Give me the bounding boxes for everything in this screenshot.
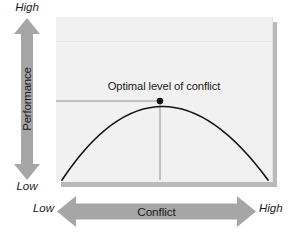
double-headed-arrow-vertical-shape [14,18,40,180]
conflict-low-label: Low [8,202,54,214]
inverted-u-curve [62,107,268,181]
performance-curve-plot [56,17,272,182]
conflict-axis-arrow [57,196,256,227]
double-headed-arrow-horizontal-shape [57,196,256,227]
conflict-performance-figure: Optimal level of conflict Performance Hi… [0,0,302,239]
optimal-point-marker [157,98,164,105]
performance-axis-arrow [14,18,40,180]
performance-high-label: High [0,1,54,13]
optimal-level-annotation: Optimal level of conflict [56,80,272,92]
conflict-high-label: High [259,202,301,214]
performance-low-label: Low [0,180,54,192]
